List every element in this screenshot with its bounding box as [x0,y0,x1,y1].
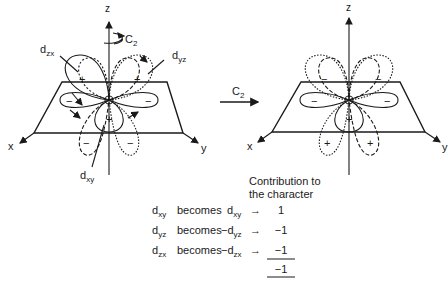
sign: − [384,96,390,107]
sign: − [127,138,133,149]
sign: − [321,74,327,85]
sign: − [375,74,381,85]
sign: + [324,138,330,149]
sign: + [367,138,373,149]
right-y-label: y [442,142,448,153]
dxy-label: dxy [80,170,94,181]
sign: − [311,96,317,107]
left-x-label: x [8,141,14,152]
sign: + [106,114,112,125]
sign: + [346,114,352,125]
right-orbital-diagram [258,18,440,175]
right-z-label: z [346,3,351,13]
left-z-label: z [105,4,110,14]
sign: + [134,74,140,85]
sign: + [79,74,85,85]
operation-label: C2 [232,86,244,97]
table-row: dzx becomes −dzx → −1 [152,244,352,258]
right-x-label: x [247,141,253,152]
contribution-header: Contribution to the character [249,175,321,201]
character-total: −1 [268,263,294,275]
y-axis [183,133,198,143]
table-row: dxy becomes dxy → 1 [152,204,352,218]
sign: − [83,138,89,149]
left-y-label: y [201,143,207,154]
table-row: dyz becomes −dyz → −1 [152,224,352,238]
dyz-label: dyz [172,50,186,61]
left-c2-label: C2 [125,34,137,45]
dzx-label: dzx [40,44,54,55]
x-axis [20,133,34,143]
sign: − [66,96,72,107]
sign: − [145,96,151,107]
diagram-graphics [0,0,448,281]
